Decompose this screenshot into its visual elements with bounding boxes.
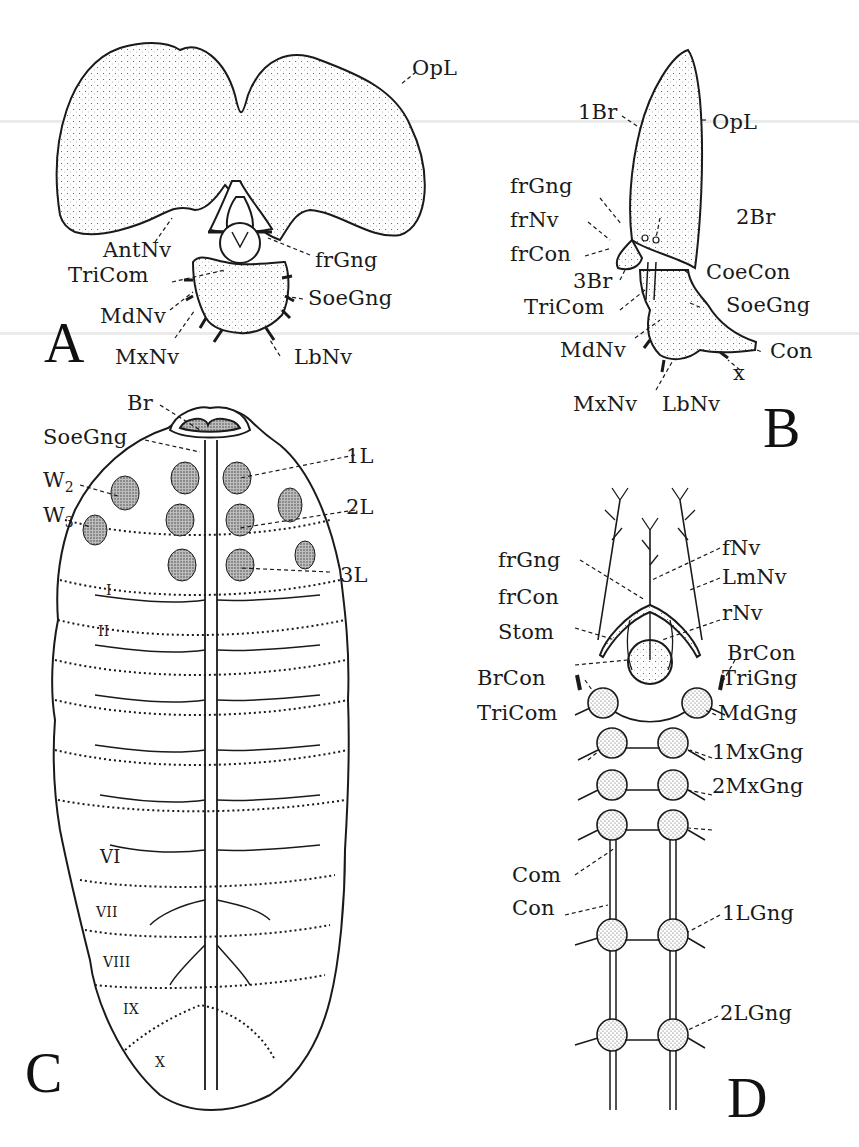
label-1br: 1Br	[578, 102, 617, 123]
label-x: x	[733, 363, 745, 384]
label-antnv: AntNv	[103, 240, 171, 261]
label-mdgng: MdGng	[718, 703, 798, 724]
label-1l: 1L	[346, 446, 374, 467]
panel-letter-b: B	[763, 400, 800, 456]
label-2lgng: 2LGng	[720, 1003, 792, 1024]
label-w3-subscript: 3	[65, 514, 74, 530]
label-coecon: CoeCon	[706, 262, 791, 283]
label-1lgng: 1LGng	[722, 903, 794, 924]
panel-c-drawing	[52, 407, 349, 1110]
label-w2-subscript: 2	[65, 479, 74, 495]
label-frnv: frNv	[510, 210, 559, 231]
panel-letter-c: C	[25, 1045, 62, 1101]
label-con: Con	[512, 898, 555, 919]
label-stom: Stom	[498, 622, 554, 643]
label-2mxgng: 2MxGng	[712, 776, 804, 797]
segment-label-10: X	[155, 1055, 165, 1069]
label-soegng: SoeGng	[308, 288, 392, 309]
panel-d-drawing	[575, 488, 725, 1110]
label-w2-text: W	[43, 468, 65, 492]
label-brcon-left: BrCon	[477, 668, 546, 689]
segment-label-6: VI	[100, 848, 121, 866]
label-mxnv: MxNv	[573, 394, 637, 415]
segment-label-2: II	[98, 624, 109, 638]
label-2br: 2Br	[736, 207, 775, 228]
label-con: Con	[770, 341, 813, 362]
label-frcon: frCon	[498, 587, 559, 608]
label-lbnv: LbNv	[294, 347, 352, 368]
label-brcon-right: BrCon	[727, 643, 796, 664]
label-opl: OpL	[412, 58, 457, 79]
segment-label-1: I	[106, 583, 112, 597]
label-tricom: TriCom	[68, 265, 149, 286]
label-mxnv: MxNv	[115, 347, 179, 368]
label-frcon: frCon	[510, 244, 571, 265]
label-tricom: TriCom	[524, 297, 605, 318]
label-soegng: SoeGng	[726, 295, 810, 316]
label-trigng: TriGng	[722, 668, 798, 689]
label-opl: OpL	[712, 112, 757, 133]
panel-letter-a: A	[44, 315, 84, 371]
label-mdnv: MdNv	[560, 340, 626, 361]
label-frgng: frGng	[315, 250, 378, 271]
label-fnv: fNv	[722, 538, 761, 559]
label-br: Br	[127, 393, 153, 414]
label-1mxgng: 1MxGng	[712, 742, 804, 763]
label-lmnv: LmNv	[722, 567, 787, 588]
label-com: Com	[512, 865, 561, 886]
label-rnv: rNv	[722, 603, 763, 624]
segment-label-7: VII	[96, 905, 118, 919]
label-3br: 3Br	[573, 271, 612, 292]
label-3l: 3L	[340, 565, 368, 586]
label-w3: W3	[43, 505, 74, 529]
label-frgng: frGng	[510, 176, 573, 197]
label-tricom: TriCom	[477, 703, 558, 724]
label-w3-text: W	[43, 503, 65, 527]
label-soegng: SoeGng	[43, 427, 127, 448]
segment-label-8: VIII	[103, 955, 131, 969]
label-mdnv: MdNv	[100, 306, 166, 327]
panel-letter-d: D	[727, 1070, 767, 1126]
label-2l: 2L	[346, 497, 374, 518]
label-w2: W2	[43, 470, 74, 494]
segment-label-9: IX	[123, 1002, 139, 1016]
label-lbnv: LbNv	[662, 394, 720, 415]
label-frgng: frGng	[498, 550, 561, 571]
